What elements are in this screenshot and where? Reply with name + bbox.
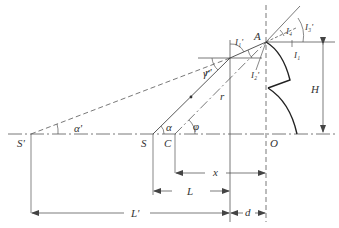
label-O: O — [270, 137, 278, 149]
label-I2-prime: I₂' — [250, 70, 260, 80]
ray-C — [175, 42, 266, 134]
arc-I3-prime — [298, 18, 304, 42]
label-H: H — [310, 83, 320, 95]
label-L: L — [186, 185, 193, 197]
label-S: S — [141, 137, 147, 149]
arc-I2-prime — [248, 50, 252, 58]
profile-lower-arc — [268, 88, 297, 134]
label-A: A — [253, 30, 261, 42]
ray-direction-dot — [190, 96, 193, 99]
label-alpha: α — [166, 121, 172, 133]
label-I4: I₄ — [285, 26, 292, 36]
label-alpha-prime: α' — [74, 122, 83, 134]
label-d: d — [245, 206, 251, 218]
arc-alpha — [161, 126, 164, 134]
label-C: C — [164, 137, 172, 149]
label-r-prime: r' — [205, 66, 212, 78]
arc-alpha-prime — [57, 124, 58, 134]
label-L-prime: L' — [130, 207, 140, 219]
label-I3-prime: I₃' — [304, 22, 314, 32]
label-S-prime: S' — [17, 137, 26, 149]
label-I1-prime: I₁' — [234, 37, 244, 47]
label-r: r — [220, 90, 225, 102]
label-x: x — [212, 166, 218, 178]
label-phi: φ — [193, 120, 199, 132]
ray-A-extension — [266, 6, 300, 42]
ray-S-prime — [31, 58, 230, 134]
profile-upper-arc — [266, 42, 290, 88]
label-I1: I₁ — [293, 50, 300, 60]
optical-geometry-diagram: S' S C O A α' α φ γ' I₁' I₂' I₃' I₄ I₁ r… — [0, 0, 339, 228]
